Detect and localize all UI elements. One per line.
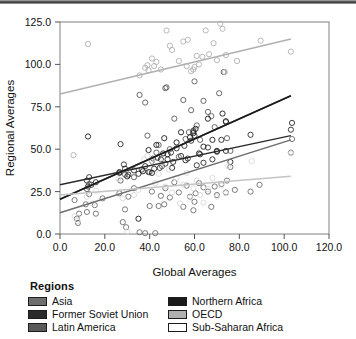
data-point bbox=[200, 54, 205, 59]
data-point bbox=[234, 58, 239, 63]
y-axis-title: Regional Averages bbox=[4, 80, 16, 177]
y-tick-label: 50.0 bbox=[31, 143, 52, 155]
legend-label: Sub-Saharan Africa bbox=[192, 322, 283, 333]
data-point bbox=[210, 175, 215, 180]
legend-swatch bbox=[28, 297, 47, 306]
data-point bbox=[196, 62, 201, 67]
legend-items: AsiaNorthern AfricaFormer Soviet UnionOE… bbox=[28, 295, 346, 334]
data-point bbox=[145, 153, 150, 158]
data-point bbox=[177, 201, 182, 206]
legend-entry: Latin America bbox=[28, 321, 168, 334]
data-point bbox=[232, 187, 237, 192]
data-point bbox=[248, 189, 253, 194]
legend-swatch bbox=[28, 323, 47, 332]
data-point bbox=[126, 194, 131, 199]
data-point bbox=[194, 163, 199, 168]
data-point bbox=[248, 132, 253, 137]
legend-entry: Sub-Saharan Africa bbox=[168, 321, 328, 334]
data-point bbox=[210, 137, 215, 142]
data-point bbox=[191, 186, 196, 191]
data-point bbox=[118, 142, 123, 147]
data-point bbox=[167, 195, 172, 200]
data-point bbox=[140, 169, 145, 174]
axis-labels-layer: 0.020.040.060.080.0100.0120.00.025.050.0… bbox=[4, 16, 342, 278]
legend-entry: Northern Africa bbox=[168, 295, 328, 308]
legend-entry: Former Soviet Union bbox=[28, 308, 168, 321]
data-point bbox=[181, 97, 186, 102]
data-point bbox=[71, 153, 76, 158]
data-point bbox=[194, 123, 199, 128]
legend-swatch bbox=[168, 297, 187, 306]
x-tick-label: 20.0 bbox=[95, 241, 116, 253]
data-point bbox=[189, 108, 194, 113]
x-tick-label: 60.0 bbox=[184, 241, 205, 253]
data-point bbox=[224, 136, 229, 141]
data-point bbox=[209, 204, 214, 209]
legend-label: Former Soviet Union bbox=[52, 309, 148, 320]
data-point bbox=[143, 100, 148, 105]
data-point bbox=[201, 200, 206, 205]
data-point bbox=[192, 79, 197, 84]
data-point bbox=[85, 41, 90, 46]
y-tick-label: 0.0 bbox=[36, 228, 51, 240]
data-point bbox=[214, 58, 219, 63]
data-point bbox=[201, 98, 206, 103]
legend-label: Northern Africa bbox=[192, 296, 262, 307]
data-point bbox=[149, 189, 154, 194]
data-point bbox=[169, 190, 174, 195]
data-point bbox=[198, 192, 203, 197]
data-point bbox=[211, 41, 216, 46]
data-point bbox=[203, 28, 208, 33]
data-point bbox=[249, 158, 254, 163]
x-tick-label: 80.0 bbox=[229, 241, 250, 253]
x-tick-label: 40.0 bbox=[139, 241, 160, 253]
legend: Regions AsiaNorthern AfricaFormer Soviet… bbox=[28, 280, 346, 334]
data-point bbox=[162, 136, 167, 141]
data-point bbox=[217, 91, 222, 96]
data-point bbox=[191, 208, 196, 213]
legend-entry: Asia bbox=[28, 295, 168, 308]
legend-label: Asia bbox=[52, 296, 72, 307]
data-point bbox=[120, 196, 125, 201]
data-point bbox=[122, 207, 127, 212]
x-tick-label: 0.0 bbox=[53, 241, 68, 253]
data-point bbox=[158, 193, 163, 198]
legend-entry: OECD bbox=[168, 308, 328, 321]
data-point bbox=[201, 160, 206, 165]
data-point bbox=[156, 171, 161, 176]
legend-swatch bbox=[168, 323, 187, 332]
x-tick-label: 100.0 bbox=[271, 241, 297, 253]
data-point bbox=[176, 58, 181, 63]
data-point bbox=[220, 111, 225, 116]
trendline bbox=[60, 176, 291, 195]
data-point bbox=[156, 203, 161, 208]
data-point bbox=[149, 56, 154, 61]
data-point bbox=[288, 127, 293, 132]
y-tick-label: 125.0 bbox=[25, 16, 51, 28]
x-axis-title: Global Averages bbox=[152, 266, 236, 278]
legend-label: Latin America bbox=[52, 322, 116, 333]
data-point bbox=[176, 190, 181, 195]
trendline bbox=[60, 136, 291, 185]
legend-swatch bbox=[28, 310, 47, 319]
data-point bbox=[288, 49, 293, 54]
data-point bbox=[194, 53, 199, 58]
data-point bbox=[146, 147, 151, 152]
data-point bbox=[184, 183, 189, 188]
data-point bbox=[258, 38, 263, 43]
data-point bbox=[212, 184, 217, 189]
data-point bbox=[153, 231, 158, 236]
data-point bbox=[93, 211, 98, 216]
data-point bbox=[85, 134, 90, 139]
y-tick-label: 75.0 bbox=[31, 101, 52, 113]
data-point bbox=[131, 175, 136, 180]
data-point bbox=[178, 130, 183, 135]
y-tick-label: 25.0 bbox=[31, 186, 52, 198]
trendline bbox=[60, 96, 291, 199]
legend-swatch bbox=[168, 310, 187, 319]
legend-title: Regions bbox=[30, 280, 346, 292]
data-point bbox=[147, 203, 152, 208]
data-point bbox=[154, 59, 159, 64]
data-point bbox=[206, 52, 211, 57]
data-point bbox=[136, 216, 141, 221]
